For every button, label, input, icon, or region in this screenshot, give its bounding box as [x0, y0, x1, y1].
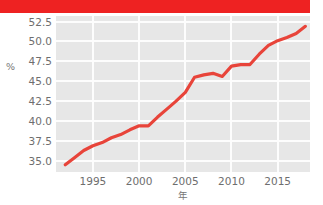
y-tick-label: 45.0 [4, 76, 52, 86]
x-axis-label: 年 [56, 188, 310, 202]
x-tick-label: 1995 [73, 176, 113, 187]
x-tick-label: 2015 [258, 176, 298, 187]
plot-area [56, 16, 310, 172]
y-axis-label: % [6, 61, 15, 72]
x-tick-label: 2005 [165, 176, 205, 187]
y-tick-label: 35.0 [4, 156, 52, 166]
chart-figure: 35.037.540.042.545.047.550.052.5 1995200… [0, 0, 323, 205]
y-tick-label: 50.0 [4, 36, 52, 46]
chart-page: 35.037.540.042.545.047.550.052.5 1995200… [0, 0, 323, 205]
x-tick-label: 2010 [211, 176, 251, 187]
y-tick-label: 42.5 [4, 96, 52, 106]
line-series [56, 16, 310, 172]
y-tick-label: 52.5 [4, 17, 52, 27]
y-axis-ticks: 35.037.540.042.545.047.550.052.5 [0, 16, 52, 172]
y-tick-label: 40.0 [4, 116, 52, 126]
x-tick-label: 2000 [119, 176, 159, 187]
y-tick-label: 37.5 [4, 136, 52, 146]
